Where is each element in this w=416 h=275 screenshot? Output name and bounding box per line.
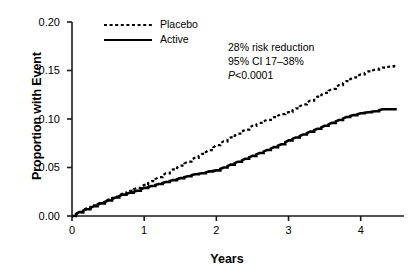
x-tick-label-0: 0 (57, 225, 87, 236)
kaplan-meier-chart: Proportion with Event Years 0.000.050.10… (0, 0, 416, 275)
annotation-confidence-interval: 95% CI 17–38% (228, 56, 304, 67)
y-tick-label-2: 0.10 (20, 114, 60, 125)
legend-label-placebo: Placebo (160, 19, 198, 30)
legend-label-active: Active (160, 34, 189, 45)
p-value-number: <0.0001 (235, 69, 273, 81)
p-value-symbol: P (228, 69, 235, 81)
x-tick-label-1: 1 (129, 225, 159, 236)
x-tick-label-2: 2 (201, 225, 231, 236)
y-tick-label-4: 0.20 (20, 17, 60, 28)
x-axis-label: Years (72, 252, 382, 266)
series-group (72, 66, 397, 216)
legend-swatches (104, 25, 152, 40)
annotation-risk-reduction: 28% risk reduction (228, 42, 314, 53)
y-tick-label-1: 0.05 (20, 162, 60, 173)
y-tick-label-0: 0.00 (20, 211, 60, 222)
x-tick-label-3: 3 (274, 225, 304, 236)
series-line-active (72, 109, 397, 216)
y-tick-label-3: 0.15 (20, 65, 60, 76)
annotation-p-value: P<0.0001 (228, 70, 273, 81)
series-line-placebo (72, 66, 397, 216)
x-tick-label-4: 4 (346, 225, 376, 236)
